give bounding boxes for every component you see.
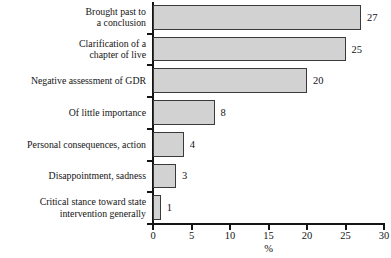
bar-row: Clarification of a chapter of live25 [153,34,384,66]
bar-value-label: 4 [190,139,195,150]
bar-row: Of little importance8 [153,97,384,129]
bar [153,37,346,62]
bar [153,100,215,125]
bar-row: Brought past to a conclusion27 [153,2,384,34]
x-axis-tick-label: 10 [225,231,236,242]
bar [153,132,184,157]
category-label: Of little importance [0,107,146,119]
plot-area: Brought past to a conclusion27Clarificat… [153,2,384,224]
bar-row: Critical stance toward state interventio… [153,192,384,224]
bar-value-label: 27 [367,13,378,24]
bar-row: Disappointment, sadness3 [153,161,384,193]
category-label: Personal consequences, action [0,139,146,151]
x-axis-tick-label: 25 [340,231,351,242]
x-axis-tick-label: 5 [189,231,194,242]
bar-row: Personal consequences, action4 [153,129,384,161]
bar-value-label: 25 [352,44,363,55]
x-axis-tick-label: 0 [150,231,155,242]
bar [153,68,307,93]
category-label: Clarification of a chapter of live [0,38,146,61]
bar-value-label: 20 [313,76,324,87]
bar [153,195,161,220]
category-label: Critical stance toward state interventio… [0,197,146,220]
category-label: Negative assessment of GDR [0,75,146,87]
x-axis-tick-label: 15 [263,231,274,242]
bar-value-label: 8 [221,108,226,119]
bar-row: Negative assessment of GDR20 [153,65,384,97]
x-axis-tick-label: 30 [379,231,390,242]
bar [153,164,176,189]
x-axis-tick-label: 20 [302,231,313,242]
bar-value-label: 1 [167,203,172,214]
category-label: Brought past to a conclusion [0,6,146,29]
x-axis-title: % [264,244,273,255]
bar [153,5,361,30]
bar-chart: Brought past to a conclusion27Clarificat… [0,0,391,258]
bar-value-label: 3 [182,171,187,182]
category-label: Disappointment, sadness [0,171,146,183]
